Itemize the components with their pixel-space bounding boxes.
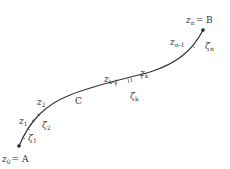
label-zetan: ζn: [205, 41, 214, 52]
end-point-b: [201, 28, 205, 32]
label-curve-c: C: [75, 96, 82, 106]
label-zn-b: zn= B: [185, 15, 213, 26]
start-point-a: [17, 144, 21, 148]
contour-diagram: z0= A zn= B z1 z2 zk-1 zk zn-1 ζ1 ζ2 ζk …: [0, 0, 230, 169]
label-zk: zk: [139, 68, 149, 79]
label-z1: z1: [18, 116, 28, 127]
label-z0-a: z0= A: [1, 154, 29, 165]
label-zk-minus-1: zk-1: [103, 74, 118, 85]
label-zn-minus-1: zn-1: [169, 37, 184, 48]
label-z2: z2: [36, 97, 46, 108]
label-zeta2: ζ2: [42, 120, 51, 131]
label-zetak: ζk: [130, 91, 139, 102]
label-zeta1: ζ1: [28, 133, 37, 144]
